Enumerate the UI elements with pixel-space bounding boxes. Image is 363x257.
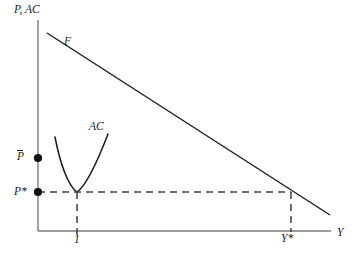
x-axis-label: Y — [337, 227, 343, 239]
y-axis-label: P, AC — [14, 4, 40, 16]
quantity-one-tick-label: 1 — [74, 234, 80, 246]
ac-curve — [55, 134, 108, 192]
output-star-tick-label: Y* — [281, 233, 293, 245]
f-curve-label: F — [64, 36, 71, 48]
p-bar-tick-label: P — [17, 151, 24, 163]
ac-curve-label: AC — [89, 121, 104, 133]
p-bar-glyph: P — [17, 151, 24, 163]
economics-diagram — [0, 0, 363, 257]
p-bar-marker-dot — [34, 154, 42, 162]
p-star-tick-label: P* — [14, 186, 27, 198]
p-star-marker-dot — [34, 188, 42, 196]
figure-canvas: P, AC Y F AC P P* 1 Y* — [0, 0, 363, 257]
